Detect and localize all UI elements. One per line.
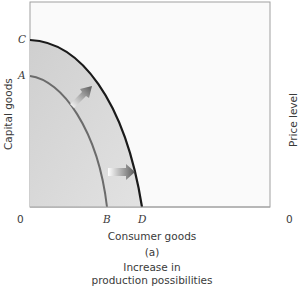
panel-label: (a) bbox=[82, 246, 222, 258]
point-a-label: A bbox=[18, 69, 26, 81]
x-axis-label: Consumer goods bbox=[82, 230, 222, 242]
caption-line-1: Increase in bbox=[82, 261, 222, 273]
point-d-label: D bbox=[138, 213, 146, 225]
point-c-label: C bbox=[18, 33, 26, 45]
point-b-label: B bbox=[103, 213, 111, 225]
caption-line-2: production possibilities bbox=[82, 274, 222, 286]
origin-label: 0 bbox=[17, 213, 24, 225]
right-y-axis-label: Price level bbox=[287, 90, 299, 150]
ppc-diagram bbox=[0, 0, 302, 286]
y-axis-label: Capital goods bbox=[2, 90, 14, 150]
right-origin-label: 0 bbox=[286, 213, 293, 225]
